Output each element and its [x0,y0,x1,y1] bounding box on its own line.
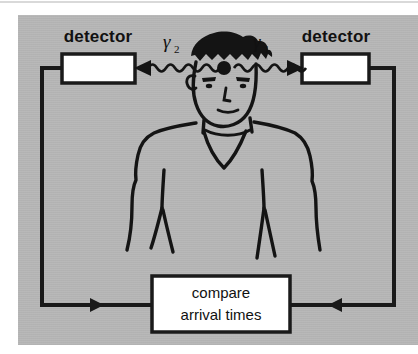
right-hand-line [265,210,275,256]
nose [224,88,230,101]
right-eyebrow [236,77,250,82]
diagram-root: detector detector [0,0,418,354]
right-detector-label: detector [302,27,371,46]
right-flow-arrowhead [328,298,342,312]
svg-text:γ: γ [253,31,261,52]
left-detector[interactable] [62,54,135,83]
left-detector-label: detector [64,27,133,46]
right-side-seam [262,170,264,208]
left-eye [206,84,212,88]
left-inner-arm [151,208,162,248]
right-eye [240,84,246,88]
right-inner-arm [257,208,264,258]
left-eyebrow [202,77,216,82]
gamma2-wave [148,65,220,72]
patient-torso [127,122,320,258]
svg-text:2: 2 [174,43,180,55]
compare-arrival-times-box[interactable]: compare arrival times [152,276,290,332]
left-hand-line [163,210,173,252]
gamma2-label: γ 2 [163,31,180,55]
right-detector-box[interactable] [302,54,369,83]
wire-right-loop [290,68,394,305]
left-detector-box[interactable] [62,54,135,83]
right-detector[interactable] [302,54,369,83]
left-flow-arrowhead [90,298,104,312]
circuit-wiring [42,68,394,305]
svg-text:γ: γ [163,31,171,52]
annihilation-event-dot [217,61,231,75]
mouth [218,110,238,112]
compare-box-line1: compare [192,284,250,301]
diagram-canvas: detector detector [0,0,418,354]
left-side-seam [162,170,164,208]
svg-text:1: 1 [264,43,270,55]
compare-box-line2: arrival times [181,306,262,323]
